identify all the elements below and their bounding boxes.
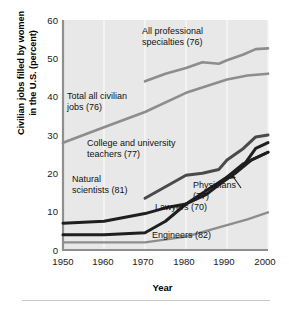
series-label-total-all-civilian-jobs: Total all civilian jobs (76) (67, 91, 127, 113)
label-line-2: specialties (76) (142, 37, 203, 48)
chart-figure: Civilian jobs filled by women in the U.S… (0, 0, 289, 310)
label-line-2: scientists (81) (72, 185, 128, 196)
label-line-2: (77) (193, 191, 236, 202)
label-line-1: All professional (142, 26, 203, 37)
plot-background (63, 20, 268, 250)
label-line-1: Natural (72, 174, 128, 185)
label-line-2: jobs (76) (67, 102, 127, 113)
series-label-physicians: Physicians (77) (193, 180, 236, 202)
series-label-college-and-university-teachers: College and university teachers (77) (87, 138, 176, 160)
x-axis-label: Year (60, 282, 265, 293)
series-label-all-professional-specialties: All professional specialties (76) (142, 26, 203, 48)
label-line-1: College and university (87, 138, 176, 149)
series-label-natural-scientists: Natural scientists (81) (72, 174, 128, 196)
label-line-2: teachers (77) (87, 149, 176, 160)
label-line-1: Total all civilian (67, 91, 127, 102)
series-label-lawyers: Lawyers (70) (155, 202, 207, 213)
figure-bottom-rule (22, 300, 270, 301)
label-line-1: Physicians (193, 180, 236, 191)
series-label-engineers: Engineers (82) (152, 230, 211, 241)
